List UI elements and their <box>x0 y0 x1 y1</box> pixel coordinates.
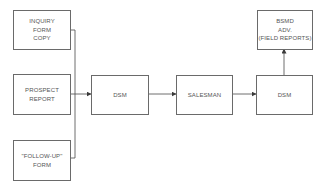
node-label-line: ADV. <box>278 26 292 35</box>
node-label-line: (FIELD REPORTS) <box>258 34 311 43</box>
node-label-line: "FOLLOW-UP" <box>22 152 63 161</box>
node-dsm-1: DSM <box>91 75 149 115</box>
node-label-line: REPORT <box>29 95 55 104</box>
node-label-line: FORM <box>33 161 51 170</box>
node-label-line: DSM <box>278 91 292 100</box>
node-prospect-report: PROSPECT REPORT <box>13 74 71 115</box>
node-label-line: DSM <box>113 91 127 100</box>
node-follow-up-form: "FOLLOW-UP" FORM <box>13 140 71 181</box>
node-label-line: PROSPECT <box>25 86 59 95</box>
node-salesman: SALESMAN <box>176 75 233 115</box>
node-dsm-2: DSM <box>256 75 313 115</box>
flowchart-diagram: INQUIRY FORM COPY PROSPECT REPORT "FOLLO… <box>0 0 323 190</box>
node-inquiry-form-copy: INQUIRY FORM COPY <box>13 10 71 50</box>
node-label-line: BSMD <box>276 17 294 26</box>
node-label-line: SALESMAN <box>188 91 221 100</box>
node-label-line: INQUIRY <box>29 17 55 26</box>
node-bsmd-adv-field-reports: BSMD ADV. (FIELD REPORTS) <box>257 10 313 50</box>
node-label-line: FORM <box>33 26 51 35</box>
node-label-line: COPY <box>33 34 50 43</box>
